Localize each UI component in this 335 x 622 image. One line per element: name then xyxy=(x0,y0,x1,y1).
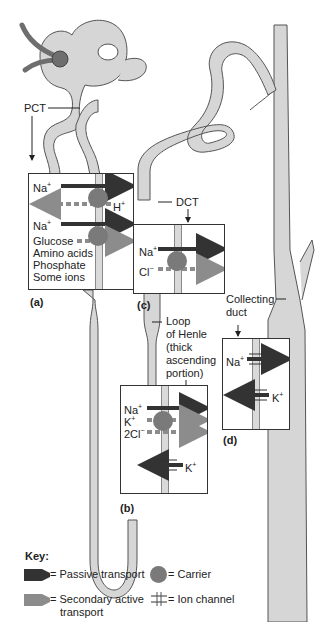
carrier-icon xyxy=(150,566,167,583)
passive-transport-arrow-icon xyxy=(24,569,50,581)
panel-d-letter: (d) xyxy=(223,434,237,447)
ion-cl: Cl− xyxy=(139,263,153,278)
collecting-duct-tube xyxy=(250,25,314,622)
solute-amino-acids: Amino acids xyxy=(33,247,93,259)
ion-k: K+ xyxy=(272,389,283,404)
panel-c-letter: (c) xyxy=(137,299,150,312)
carrier xyxy=(88,188,108,208)
carrier xyxy=(153,411,173,431)
ion-2cl: 2Cl− xyxy=(124,425,145,440)
solute-some-ions: Some ions xyxy=(33,271,85,283)
carrier xyxy=(88,226,108,246)
panel-c-dct: Na+ Cl− xyxy=(133,224,225,294)
ion-na: Na+ xyxy=(139,243,157,258)
legend-carrier: = Carrier xyxy=(168,568,211,581)
solute-phosphate: Phosphate xyxy=(33,259,86,271)
panel-a-letter: (a) xyxy=(30,296,43,309)
legend-passive: = Passive transport xyxy=(50,568,144,581)
ion-channel-icon xyxy=(150,592,168,606)
ion-na: Na+ xyxy=(226,353,244,368)
panel-a-pct: Na+ H+ Na+ Glucose Amino acids Phosphate… xyxy=(28,173,134,290)
ion-na: Na+ xyxy=(33,179,51,194)
ion-na: Na+ xyxy=(33,217,51,232)
carrier xyxy=(167,251,187,271)
legend-title: Key: xyxy=(25,550,49,563)
dct-label: DCT xyxy=(176,196,199,209)
legend-secondary-2: transport xyxy=(60,606,103,619)
nephron-illustration xyxy=(0,0,335,622)
panel-b-letter: (b) xyxy=(120,502,134,515)
ion-k: K+ xyxy=(185,459,196,474)
legend-ion-channel: = Ion channel xyxy=(168,593,234,606)
solute-glucose: Glucose xyxy=(33,235,73,247)
pct-label: PCT xyxy=(24,102,46,115)
panel-b-loop: Na+ K+ 2Cl− K+ xyxy=(120,385,208,494)
legend-secondary: = Secondary active xyxy=(50,593,144,606)
ion-h: H+ xyxy=(113,198,125,213)
secondary-active-arrow-icon xyxy=(24,594,50,606)
panel-d-collecting-duct: Na+ K+ xyxy=(222,338,290,430)
